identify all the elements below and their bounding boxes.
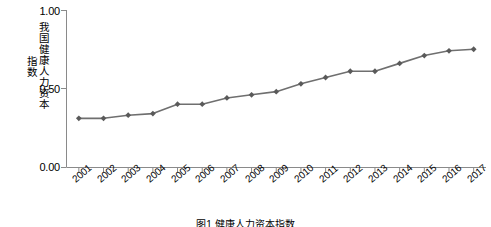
data-point-marker: [347, 68, 353, 74]
y-tick-label-0-5: 0.50: [26, 83, 60, 95]
y-tick-label-1: 1.00: [26, 5, 60, 17]
data-point-marker: [101, 115, 107, 121]
data-point-marker: [76, 115, 82, 121]
data-point-marker: [125, 112, 131, 118]
data-point-marker: [298, 81, 304, 87]
data-point-marker: [372, 68, 378, 74]
y-axis-label-line2: 指数: [25, 56, 36, 78]
data-point-marker: [421, 53, 427, 59]
data-point-marker: [199, 101, 205, 107]
data-point-marker: [150, 111, 156, 117]
data-point-marker: [323, 75, 329, 81]
data-point-marker: [446, 48, 452, 54]
data-point-marker: [471, 46, 477, 52]
data-point-marker: [249, 92, 255, 98]
y-tick-label-0: 0.00: [26, 161, 60, 173]
y-axis-label-line1: 我国健康人力资本: [37, 22, 48, 110]
figure-caption: 图1 健康人力资本指数: [0, 216, 491, 227]
chart-figure: 我国健康人力资本 指数 1.00 0.50 0.00 2001200220032…: [0, 0, 491, 227]
plot-area: [0, 0, 491, 227]
data-series-line: [79, 49, 474, 118]
data-point-marker: [273, 89, 279, 95]
data-point-marker: [175, 101, 181, 107]
data-point-marker: [224, 95, 230, 101]
axes: [61, 10, 486, 168]
data-point-marker: [397, 60, 403, 66]
